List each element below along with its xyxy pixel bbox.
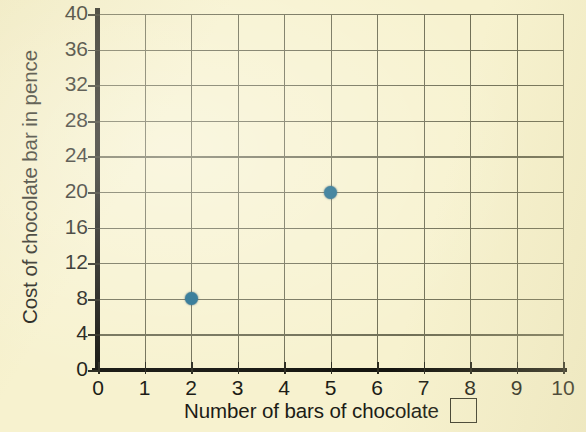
y-axis-tick [88, 334, 100, 336]
grid-line-horizontal [98, 121, 563, 122]
x-axis-tick-label: 5 [311, 376, 351, 400]
x-axis-line [92, 368, 567, 372]
y-axis-tick [88, 121, 100, 123]
y-axis-tick-label: 16 [36, 215, 88, 239]
x-axis-tick [191, 362, 193, 374]
y-axis-tick-label: 28 [36, 108, 88, 132]
grid-line-horizontal [98, 50, 563, 51]
x-axis-tick [331, 362, 333, 374]
grid-line-horizontal [98, 299, 563, 300]
x-axis-tick [470, 362, 472, 374]
x-axis-tick-label: 3 [218, 376, 258, 400]
grid-line-horizontal [98, 263, 563, 264]
y-axis-tick [88, 156, 100, 158]
x-axis-title: Number of bars of chocolate [184, 399, 439, 423]
y-axis-tick [88, 85, 100, 87]
scatter-chart-figure: Cost of chocolate bar in pence 048121620… [0, 0, 586, 432]
y-axis-tick-label: 32 [36, 72, 88, 96]
x-axis-tick [284, 362, 286, 374]
grid-line-horizontal [98, 156, 563, 157]
x-axis-tick [238, 362, 240, 374]
x-axis-tick [98, 362, 100, 374]
answer-box[interactable] [450, 398, 477, 423]
data-point [324, 186, 337, 199]
x-axis-tick-label: 7 [404, 376, 444, 400]
grid-line-horizontal [98, 334, 563, 335]
y-axis-tick-label: 8 [36, 286, 88, 310]
y-axis-tick [88, 299, 100, 301]
x-axis-title-row: Number of bars of chocolate [98, 398, 563, 423]
x-axis-tick-label: 4 [264, 376, 304, 400]
y-axis-tick [88, 14, 100, 16]
grid-line-horizontal [98, 14, 563, 15]
y-axis-tick-label: 20 [36, 179, 88, 203]
x-axis-tick-label: 10 [543, 376, 583, 400]
x-axis-tick [424, 362, 426, 374]
y-axis-tick [88, 263, 100, 265]
x-axis-tick-label: 6 [357, 376, 397, 400]
x-axis-tick-label: 0 [78, 376, 118, 400]
grid-line-vertical [563, 14, 564, 370]
x-axis-tick-label: 9 [497, 376, 537, 400]
grid-line-horizontal [98, 228, 563, 229]
y-axis-tick [88, 228, 100, 230]
x-axis-tick [517, 362, 519, 374]
data-point [185, 292, 198, 305]
x-axis-tick [563, 362, 565, 374]
y-axis-tick-label: 24 [36, 143, 88, 167]
y-axis-tick-label: 40 [36, 1, 88, 25]
y-axis-tick [88, 192, 100, 194]
y-axis-tick-label: 12 [36, 250, 88, 274]
y-axis-tick-label: 36 [36, 37, 88, 61]
y-axis-line [95, 8, 100, 372]
x-axis-tick-label: 8 [450, 376, 490, 400]
x-axis-tick [145, 362, 147, 374]
x-axis-tick [377, 362, 379, 374]
grid-line-horizontal [98, 85, 563, 86]
y-axis-tick-label: 4 [36, 321, 88, 345]
x-axis-tick-label: 1 [125, 376, 165, 400]
x-axis-tick-label: 2 [171, 376, 211, 400]
plot-area [98, 14, 563, 370]
y-axis-tick [88, 50, 100, 52]
